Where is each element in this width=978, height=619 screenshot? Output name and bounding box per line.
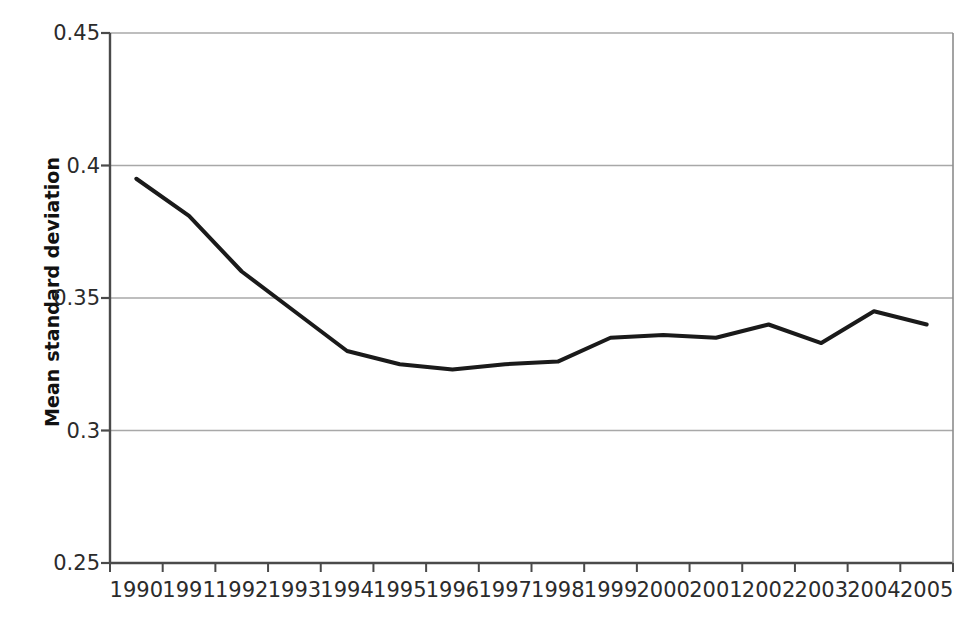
data-series-line	[136, 179, 926, 370]
series-polyline	[136, 179, 926, 370]
gridlines	[110, 33, 953, 431]
chart-container: Mean standard deviation 0.450.40.350.30.…	[0, 0, 978, 619]
y-axis-ticks	[101, 33, 110, 563]
plot-area	[0, 0, 978, 619]
x-axis-ticks	[110, 563, 953, 572]
